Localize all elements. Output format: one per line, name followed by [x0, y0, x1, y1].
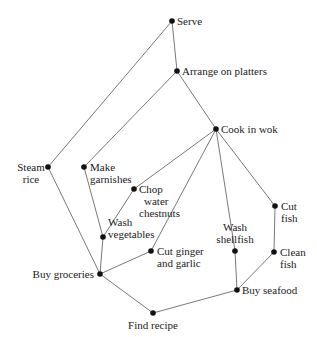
node-label: Chopwaterchestnuts	[139, 183, 180, 219]
node-chop: Chopwaterchestnuts	[131, 183, 180, 219]
edge-cleanfish-to-cutfish	[274, 206, 275, 252]
node-dot	[45, 164, 51, 170]
node-label: Washvegetables	[108, 216, 154, 240]
node-label-line: and garlic	[157, 257, 201, 269]
edge-recipe-to-seafood	[153, 290, 237, 313]
node-dot	[232, 248, 238, 254]
node-cook: Cook in wok	[213, 123, 278, 135]
edge-chop-to-cook	[134, 129, 216, 189]
node-dot	[148, 248, 154, 254]
node-label-line: fish	[281, 212, 298, 224]
node-label-line: Arrange on platters	[182, 65, 267, 77]
node-dot	[174, 68, 180, 74]
node-label: Makegarnishes	[90, 161, 132, 185]
node-label-line: Chop	[139, 183, 163, 195]
node-dot	[271, 249, 277, 255]
node-cleanfish: Cleanfish	[271, 246, 306, 270]
node-label: Arrange on platters	[182, 65, 267, 77]
node-label: Washshellfish	[216, 221, 254, 245]
node-label-line: Make	[90, 161, 115, 173]
node-cutfish: Cutfish	[272, 200, 298, 224]
node-label: Cutfish	[281, 200, 298, 224]
node-seafood: Buy seafood	[234, 284, 298, 296]
node-label-line: Cut	[281, 200, 297, 212]
node-label: Find recipe	[128, 319, 178, 331]
node-label-line: garnishes	[90, 173, 132, 185]
node-label-line: Wash	[223, 221, 248, 233]
node-dot	[131, 186, 137, 192]
node-label-line: water	[144, 195, 169, 207]
node-label-line: Buy groceries	[33, 268, 94, 280]
edge-cook-to-arrange	[177, 71, 216, 129]
node-label-line: rice	[23, 173, 40, 185]
node-label-line: Clean	[280, 246, 306, 258]
node-label-line: Find recipe	[128, 319, 178, 331]
node-garnish: Makegarnishes	[81, 161, 131, 185]
node-label-line: vegetables	[108, 228, 154, 240]
node-label: Buy groceries	[33, 268, 94, 280]
edge-groceries-to-washveg	[100, 237, 103, 274]
task-dependency-diagram: ServeArrange on plattersCook in wokSteam…	[0, 0, 317, 337]
node-label-line: shellfish	[216, 233, 254, 245]
node-dot	[150, 310, 156, 316]
node-shellfish: Washshellfish	[216, 221, 254, 254]
node-ginger: Cut gingerand garlic	[148, 245, 204, 269]
node-label-line: Cut ginger	[157, 245, 204, 257]
edge-arrange-to-serve	[172, 21, 177, 71]
node-dot	[100, 234, 106, 240]
node-label-line: Wash	[108, 216, 133, 228]
node-label-line: Serve	[177, 15, 202, 27]
node-steam: Steamrice	[17, 161, 51, 185]
edge-recipe-to-groceries	[100, 274, 153, 313]
node-dot	[81, 164, 87, 170]
node-dot	[234, 287, 240, 293]
node-washveg: Washvegetables	[100, 216, 154, 240]
node-label: Cut gingerand garlic	[157, 245, 204, 269]
edge-cutfish-to-cook	[216, 129, 275, 206]
node-dot	[213, 126, 219, 132]
node-label: Buy seafood	[242, 284, 298, 296]
edge-garnish-to-arrange	[84, 71, 177, 167]
edge-seafood-to-shellfish	[235, 251, 237, 290]
node-label: Cleanfish	[280, 246, 306, 270]
node-dot	[169, 18, 175, 24]
node-serve: Serve	[169, 15, 202, 27]
node-label: Steamrice	[17, 161, 45, 185]
node-recipe: Find recipe	[128, 310, 178, 331]
node-label: Serve	[177, 15, 202, 27]
node-label: Cook in wok	[221, 123, 278, 135]
edge-groceries-to-ginger	[100, 251, 151, 274]
node-label-line: chestnuts	[139, 207, 180, 219]
node-label-line: Buy seafood	[242, 284, 298, 296]
node-groceries: Buy groceries	[33, 268, 103, 280]
node-dot	[272, 203, 278, 209]
node-label-line: Steam	[17, 161, 45, 173]
node-label-line: fish	[280, 258, 297, 270]
node-arrange: Arrange on platters	[174, 65, 267, 77]
edge-steam-to-serve	[48, 21, 172, 167]
node-dot	[97, 271, 103, 277]
node-label-line: Cook in wok	[221, 123, 278, 135]
